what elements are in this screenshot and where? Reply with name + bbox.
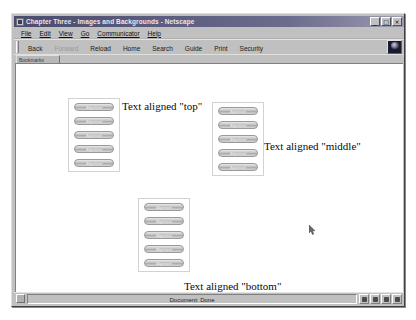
navigation-toolbar: Back Forward Reload Home Search Guide Pr… [14, 39, 404, 54]
badge-image[interactable]: Alignment [144, 217, 184, 225]
close-icon: × [393, 18, 401, 25]
page-canvas: Alignment Alignment Alignment Alignment … [15, 63, 403, 303]
netscape-document-icon [16, 18, 24, 26]
badge-group-bottom: Alignment Alignment Alignment Alignment … [138, 198, 190, 272]
guide-button[interactable]: Guide [179, 41, 208, 54]
badge-label: Alignment [145, 204, 183, 211]
badge-image[interactable]: Alignment [218, 121, 258, 129]
badge-label: Alignment [219, 122, 257, 129]
menu-label-file: File [21, 30, 31, 37]
title-bar[interactable]: Chapter Three - Images and Backgrounds -… [14, 16, 404, 27]
badge-image[interactable]: Alignment [74, 159, 114, 167]
badge-label: Alignment [219, 108, 257, 115]
reload-button[interactable]: Reload [84, 41, 117, 54]
component-bar [359, 294, 402, 304]
badge-image[interactable]: Alignment [218, 149, 258, 157]
menu-label-go: Go [81, 30, 90, 37]
netscape-logo-icon[interactable] [387, 40, 402, 54]
minimize-icon: _ [371, 18, 379, 25]
maximize-icon: □ [382, 18, 390, 25]
badge-label: Alignment [219, 150, 257, 157]
menu-bar: File Edit View Go Communicator Help [14, 28, 404, 39]
menu-item-edit[interactable]: Edit [35, 28, 54, 39]
badge-image[interactable]: Alignment [218, 107, 258, 115]
menu-item-go[interactable]: Go [77, 28, 94, 39]
menu-item-view[interactable]: View [55, 28, 77, 39]
home-button[interactable]: Home [117, 41, 146, 54]
badge-label: Alignment [75, 160, 113, 167]
badge-image[interactable]: Alignment [144, 203, 184, 211]
menu-label-view: View [59, 30, 73, 37]
menu-item-communicator[interactable]: Communicator [93, 28, 143, 39]
badge-image[interactable]: Alignment [218, 135, 258, 143]
caption-middle: Text aligned "middle" [264, 140, 361, 152]
security-lock-icon[interactable] [16, 294, 25, 303]
badge-label: Alignment [219, 164, 257, 171]
badge-label: Alignment [75, 104, 113, 111]
badge-image[interactable]: Alignment [144, 245, 184, 253]
newsgroup-icon[interactable] [370, 294, 380, 304]
screenshot-root: Chapter Three - Images and Backgrounds -… [0, 0, 416, 320]
window-title: Chapter Three - Images and Backgrounds -… [26, 16, 370, 27]
search-button[interactable]: Search [146, 41, 179, 54]
caption-top: Text aligned "top" [122, 100, 202, 112]
close-button[interactable]: × [392, 17, 402, 26]
mail-icon[interactable] [359, 294, 369, 304]
status-bar: Document: Done [14, 292, 404, 304]
security-button[interactable]: Security [234, 41, 269, 54]
browser-window: Chapter Three - Images and Backgrounds -… [11, 13, 405, 307]
badge-image[interactable]: Alignment [218, 163, 258, 171]
back-button[interactable]: Back [22, 41, 48, 54]
signal-icon[interactable] [392, 294, 402, 304]
toolbar-grip[interactable] [16, 41, 19, 53]
badge-label: Alignment [75, 132, 113, 139]
window-controls: _ □ × [370, 17, 402, 26]
badge-label: Alignment [75, 146, 113, 153]
menu-label-edit: Edit [39, 30, 50, 37]
composer-icon[interactable] [381, 294, 391, 304]
menu-item-help[interactable]: Help [144, 28, 165, 39]
caption-bottom: Text aligned "bottom" [184, 280, 281, 292]
arrow-pointer-cursor [309, 225, 316, 235]
badge-image[interactable]: Alignment [74, 145, 114, 153]
print-button[interactable]: Print [208, 41, 233, 54]
badge-label: Alignment [219, 136, 257, 143]
badge-label: Alignment [145, 260, 183, 267]
bookmarks-tab[interactable]: Bookmarks [16, 55, 60, 63]
badge-label: Alignment [145, 232, 183, 239]
location-strip: Bookmarks [14, 54, 404, 63]
badge-label: Alignment [145, 218, 183, 225]
badge-image[interactable]: Alignment [74, 131, 114, 139]
badge-group-top: Alignment Alignment Alignment Alignment … [68, 98, 120, 172]
badge-image[interactable]: Alignment [144, 259, 184, 267]
maximize-button[interactable]: □ [381, 17, 391, 26]
menu-label-help: Help [148, 30, 161, 37]
menu-label-communicator: Communicator [97, 30, 139, 37]
badge-label: Alignment [145, 246, 183, 253]
status-message: Document: Done [27, 294, 357, 304]
forward-button: Forward [48, 41, 84, 54]
badge-group-middle: Alignment Alignment Alignment Alignment … [212, 102, 264, 176]
badge-image[interactable]: Alignment [144, 231, 184, 239]
minimize-button[interactable]: _ [370, 17, 380, 26]
menu-item-file[interactable]: File [17, 28, 35, 39]
badge-image[interactable]: Alignment [74, 103, 114, 111]
badge-label: Alignment [75, 118, 113, 125]
badge-image[interactable]: Alignment [74, 117, 114, 125]
